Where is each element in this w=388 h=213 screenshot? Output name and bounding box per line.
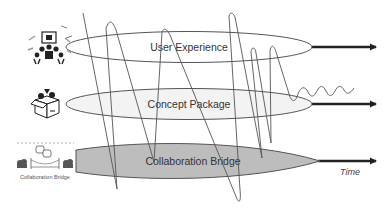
collaboration-bridge-icon-caption: Collaboration Bridge [20,174,70,180]
collaboration-bridge-icon: Collaboration Bridge [17,143,74,180]
innovation-layers-diagram: User Experience Concept Package Collabor… [0,0,388,213]
icon-connector-user-experience [66,36,72,38]
layer-label-concept-package: Concept Package [148,98,231,110]
layer-label-user-experience: User Experience [150,41,228,53]
time-axis-label: Time [340,167,360,177]
layer-label-collaboration-bridge: Collaboration Bridge [145,155,240,167]
team-meeting-icon [28,26,71,64]
package-box-icon [31,89,59,118]
